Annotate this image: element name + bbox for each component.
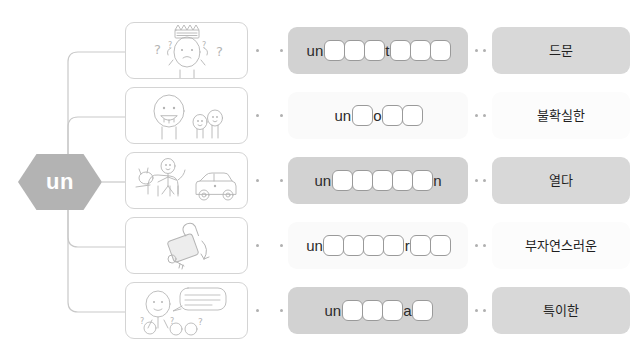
letter-blank-input[interactable] (430, 235, 451, 256)
picture-card-2[interactable] (125, 87, 248, 144)
meaning-label: 특이한 (543, 304, 579, 317)
root-node-label: un (46, 171, 74, 193)
confused-person-with-crown-icon: ? ? ? ? (128, 24, 246, 78)
letter-blank-input[interactable] (410, 235, 431, 256)
match-dot-word-right-4[interactable] (475, 244, 478, 247)
picture-card-5[interactable]: ? ? ? (125, 282, 248, 339)
letter-blank-input[interactable] (343, 235, 364, 256)
word-card-5[interactable]: una (288, 287, 468, 334)
meaning-label: 부자연스러운 (525, 239, 597, 252)
svg-text:?: ? (198, 317, 203, 327)
word-segments: una (323, 300, 432, 321)
letter-blank-input[interactable] (410, 40, 431, 61)
word-segments: unr (305, 235, 451, 256)
word-letters: n (432, 173, 442, 188)
match-dot-pic-5[interactable] (256, 309, 259, 312)
letter-blank-input[interactable] (332, 170, 353, 191)
match-dot-word-left-5[interactable] (280, 309, 283, 312)
word-segments: unt (306, 40, 451, 61)
meaning-card-3[interactable]: 열다 (492, 157, 630, 204)
word-letters: a (402, 303, 412, 318)
word-letters: un (333, 108, 352, 123)
hexagon-shape: un (18, 154, 102, 210)
letter-blank-input[interactable] (352, 170, 373, 191)
svg-text:?: ? (140, 317, 144, 326)
meaning-card-1[interactable]: 드문 (492, 27, 630, 74)
matching-activity-board: un ? (0, 0, 637, 363)
letter-blank-input[interactable] (402, 105, 423, 126)
picture-card-4[interactable] (125, 217, 248, 274)
match-dot-pic-1[interactable] (256, 49, 259, 52)
meaning-card-4[interactable]: 부자연스러운 (492, 222, 630, 269)
letter-blank-input[interactable] (382, 105, 403, 126)
letter-blank-input[interactable] (363, 235, 384, 256)
letter-blank-input[interactable] (352, 105, 373, 126)
letter-blank-input[interactable] (382, 300, 403, 321)
svg-text:?: ? (202, 41, 206, 50)
letter-blank-input[interactable] (342, 300, 363, 321)
letter-blank-input[interactable] (362, 300, 383, 321)
letter-blank-input[interactable] (412, 170, 433, 191)
word-card-4[interactable]: unr (288, 222, 468, 269)
match-dot-word-right-3[interactable] (475, 179, 478, 182)
word-card-3[interactable]: unn (288, 157, 468, 204)
meaning-label: 드문 (549, 44, 573, 57)
word-letters: un (313, 173, 332, 188)
svg-text:?: ? (168, 41, 172, 50)
meaning-card-5[interactable]: 특이한 (492, 287, 630, 334)
word-card-1[interactable]: unt (288, 27, 468, 74)
meaning-label: 불확실한 (537, 109, 585, 122)
letter-blank-input[interactable] (430, 40, 451, 61)
letter-blank-input[interactable] (412, 300, 433, 321)
match-dot-word-left-4[interactable] (280, 244, 283, 247)
letter-blank-input[interactable] (383, 235, 404, 256)
meaning-label: 열다 (549, 174, 573, 187)
word-letters: o (372, 108, 382, 123)
match-dot-pic-2[interactable] (256, 114, 259, 117)
svg-text:?: ? (154, 42, 161, 57)
svg-text:?: ? (216, 44, 223, 59)
match-dot-pic-4[interactable] (256, 244, 259, 247)
root-node-un[interactable]: un (18, 154, 102, 210)
open-padlock-with-key-icon (128, 219, 246, 273)
match-dot-meaning-5[interactable] (483, 309, 486, 312)
picture-card-3[interactable] (125, 152, 248, 209)
person-riding-horse-beside-car-icon (128, 154, 246, 208)
meaning-card-2[interactable]: 불확실한 (492, 92, 630, 139)
person-with-unusual-name-speech-bubble-icon: ? ? ? (128, 284, 246, 338)
match-dot-meaning-3[interactable] (483, 179, 486, 182)
svg-text:?: ? (170, 317, 174, 326)
match-dot-word-left-2[interactable] (280, 114, 283, 117)
letter-blank-input[interactable] (390, 40, 411, 61)
match-dot-pic-3[interactable] (256, 179, 259, 182)
word-letters: un (306, 43, 325, 58)
word-card-2[interactable]: uno (288, 92, 468, 139)
match-dot-word-left-1[interactable] (280, 49, 283, 52)
match-dot-word-right-2[interactable] (475, 114, 478, 117)
match-dot-meaning-2[interactable] (483, 114, 486, 117)
letter-blank-input[interactable] (323, 235, 344, 256)
letter-blank-input[interactable] (372, 170, 393, 191)
match-dot-word-right-1[interactable] (475, 49, 478, 52)
word-segments: uno (333, 105, 422, 126)
letter-blank-input[interactable] (324, 40, 345, 61)
word-letters: un (323, 303, 342, 318)
match-dot-word-left-3[interactable] (280, 179, 283, 182)
one-large-two-small-figures-icon (128, 89, 246, 143)
match-dot-meaning-4[interactable] (483, 244, 486, 247)
letter-blank-input[interactable] (364, 40, 385, 61)
picture-card-1[interactable]: ? ? ? ? (125, 22, 248, 79)
word-letters: un (305, 238, 324, 253)
letter-blank-input[interactable] (344, 40, 365, 61)
match-dot-meaning-1[interactable] (483, 49, 486, 52)
word-segments: unn (313, 170, 442, 191)
letter-blank-input[interactable] (392, 170, 413, 191)
match-dot-word-right-5[interactable] (475, 309, 478, 312)
